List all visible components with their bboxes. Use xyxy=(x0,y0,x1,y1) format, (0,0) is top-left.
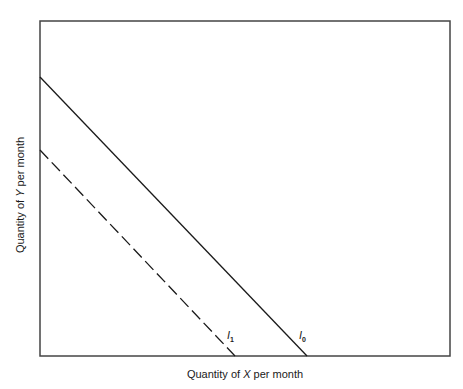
chart: I1 I0 Quantity of X per month Quantity o… xyxy=(0,0,463,389)
x-axis-label: Quantity of X per month xyxy=(187,368,303,380)
label-i0: I0 xyxy=(299,329,306,343)
label-i1: I1 xyxy=(227,329,234,343)
y-axis-label: Quantity of Y per month xyxy=(14,137,26,253)
line-i1 xyxy=(40,150,235,356)
plot-frame xyxy=(40,21,450,356)
line-i0 xyxy=(40,77,307,356)
